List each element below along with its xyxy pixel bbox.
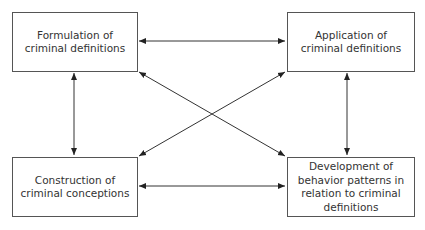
node-construction: Construction of criminal conceptions	[12, 157, 138, 217]
node-application: Application of criminal definitions	[287, 12, 415, 72]
node-construction-label: Construction of criminal conceptions	[21, 174, 130, 201]
node-formulation-label: Formulation of criminal definitions	[25, 29, 125, 56]
node-application-label: Application of criminal definitions	[301, 29, 401, 56]
node-development: Development of behavior patterns in rela…	[287, 157, 415, 217]
node-formulation: Formulation of criminal definitions	[12, 12, 138, 72]
node-development-label: Development of behavior patterns in rela…	[298, 160, 404, 214]
